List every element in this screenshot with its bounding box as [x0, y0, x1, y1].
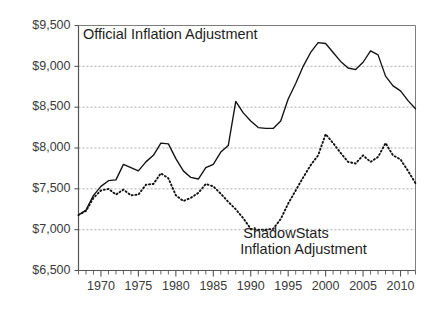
y-tick-label-6500: $6,500	[32, 263, 70, 277]
x-tick-label-1970: 1970	[87, 279, 115, 293]
x-tick-label-1990: 1990	[237, 279, 265, 293]
inflation-adjustment-line-chart: $6,500$7,000$7,500$8,000$8,500$9,000$9,5…	[0, 0, 438, 317]
y-tick-label-8000: $8,000	[32, 140, 70, 154]
x-axis-tick-labels: 197019751980198519901995200020052010	[87, 279, 414, 293]
y-tick-label-7000: $7,000	[32, 222, 70, 236]
x-tick-label-2010: 2010	[387, 279, 415, 293]
y-tick-label-8500: $8,500	[32, 99, 70, 113]
x-tick-label-2000: 2000	[312, 279, 340, 293]
x-tick-label-2005: 2005	[349, 279, 377, 293]
x-tick-label-1995: 1995	[274, 279, 302, 293]
y-tick-label-7500: $7,500	[32, 181, 70, 195]
x-tick-label-1980: 1980	[162, 279, 190, 293]
shadowstats-label-line1: ShadowStats	[243, 225, 328, 241]
official-label: Official Inflation Adjustment	[83, 26, 258, 42]
x-tick-label-1985: 1985	[199, 279, 227, 293]
y-tick-label-9000: $9,000	[32, 59, 70, 73]
chart-container: $6,500$7,000$7,500$8,000$8,500$9,000$9,5…	[0, 0, 438, 317]
x-tick-label-1975: 1975	[125, 279, 153, 293]
y-tick-label-9500: $9,500	[32, 18, 70, 32]
shadowstats-label-line2: Inflation Adjustment	[240, 241, 367, 257]
